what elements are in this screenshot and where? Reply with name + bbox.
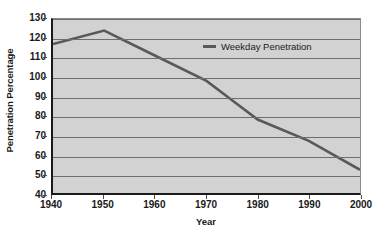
x-tick-label: 1960 [131, 200, 177, 210]
y-tick-mark [43, 136, 47, 137]
gridline [53, 157, 360, 158]
gridline [53, 39, 360, 40]
y-tick-mark [43, 175, 47, 176]
x-tick-label: 1990 [286, 200, 332, 210]
legend-item-label: Weekday Penetration [221, 41, 312, 52]
legend-line-marker-icon [203, 45, 216, 48]
plot-area: Weekday Penetration [51, 18, 361, 195]
gridline [53, 58, 360, 59]
x-tick-label: 1950 [80, 200, 126, 210]
y-tick-mark [43, 18, 47, 19]
gridline [53, 98, 360, 99]
gridline [53, 117, 360, 118]
gridline [53, 137, 360, 138]
y-axis-title-label: Penetration Percentage [5, 48, 16, 152]
x-tick-label: 1980 [235, 200, 281, 210]
y-tick-mark [43, 116, 47, 117]
gridline [53, 176, 360, 177]
y-tick-mark [43, 57, 47, 58]
y-tick-mark [43, 38, 47, 39]
gridline [53, 78, 360, 79]
x-tick-label: 1970 [183, 200, 229, 210]
legend: Weekday Penetration [203, 41, 312, 52]
x-tick-label: 2000 [338, 200, 383, 210]
line-chart: Penetration Percentage 40506070809010011… [0, 0, 383, 237]
gridline [53, 19, 360, 20]
y-tick-mark [43, 77, 47, 78]
x-axis-title: Year [51, 216, 361, 227]
x-axis-ticks: 1940195019601970198019902000 [0, 195, 383, 235]
y-tick-mark [43, 156, 47, 157]
x-tick-label: 1940 [28, 200, 74, 210]
y-tick-mark [43, 97, 47, 98]
